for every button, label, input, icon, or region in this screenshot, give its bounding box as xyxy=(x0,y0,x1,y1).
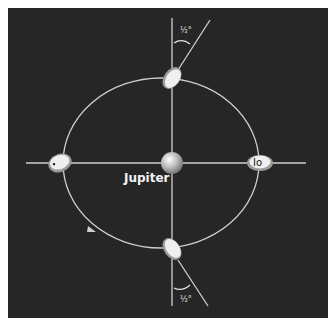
io-bottom xyxy=(159,235,186,264)
io-label: Io xyxy=(253,157,262,168)
orbit-direction-arrow-icon xyxy=(87,226,96,232)
jupiter-io-diagram: ½° ½° Jupiter Io xyxy=(0,0,336,326)
angle-arc-bottom xyxy=(174,285,190,289)
angle-label-top: ½° xyxy=(180,26,192,35)
jupiter-label: Jupiter xyxy=(123,171,170,185)
angle-label-bottom: ½° xyxy=(180,295,192,304)
io-left xyxy=(46,150,75,175)
angle-arc-top xyxy=(174,41,190,44)
